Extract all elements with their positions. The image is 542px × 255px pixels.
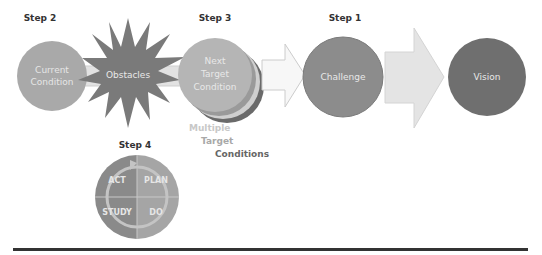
pdsa-cycle: ACT PLAN STUDY DO xyxy=(95,155,179,239)
step2-label: Step 2 xyxy=(24,13,57,23)
pdsa-act: ACT xyxy=(108,176,126,185)
multiple-targets-line3: Conditions xyxy=(215,149,269,159)
vision-label: Vision xyxy=(474,72,501,82)
current-condition-node: Current Condition xyxy=(17,41,87,111)
step3-label: Step 3 xyxy=(199,13,232,23)
arrow-to-vision-icon xyxy=(385,28,444,128)
pdsa-plan: PLAN xyxy=(144,176,168,185)
arrow-to-challenge-icon xyxy=(262,44,305,107)
current-condition-line1: Current xyxy=(35,65,69,75)
challenge-label: Challenge xyxy=(321,72,366,82)
bottom-rule xyxy=(13,248,528,251)
next-target-line2: Target xyxy=(200,69,229,79)
vision-node: Vision xyxy=(448,38,526,116)
obstacles-label: Obstacles xyxy=(106,70,151,80)
pdsa-do: DO xyxy=(149,208,163,217)
next-target-line1: Next xyxy=(205,56,226,66)
current-condition-line2: Condition xyxy=(31,77,74,87)
multiple-targets-line1: Multiple xyxy=(189,123,230,133)
pdsa-study: STUDY xyxy=(102,208,132,217)
challenge-node: Challenge xyxy=(303,37,383,117)
next-target-node: Next Target Condition xyxy=(178,38,264,123)
improvement-kata-diagram: Current Condition Obstacles Next Target … xyxy=(0,0,542,255)
next-target-line3: Condition xyxy=(194,82,237,92)
multiple-targets-line2: Target xyxy=(201,136,234,146)
step4-label: Step 4 xyxy=(119,140,152,150)
step1-label: Step 1 xyxy=(329,13,362,23)
